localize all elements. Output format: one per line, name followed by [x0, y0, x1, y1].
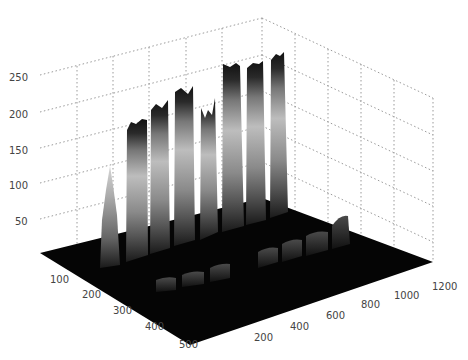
x-tick-600: 600: [326, 310, 345, 321]
z-tick-250: 250: [9, 72, 28, 83]
z-axis: 250 200 150 100 50: [9, 72, 28, 227]
z-tick-200: 200: [9, 109, 28, 120]
y-tick-300: 300: [113, 305, 132, 316]
x-tick-800: 800: [361, 299, 380, 310]
z-tick-100: 100: [9, 180, 28, 191]
x-tick-400: 400: [290, 321, 309, 332]
y-tick-200: 200: [82, 289, 101, 300]
y-tick-400: 400: [145, 321, 164, 332]
y-tick-500: 500: [179, 339, 198, 350]
z-tick-50: 50: [15, 216, 28, 227]
z-tick-150: 150: [9, 145, 28, 156]
y-tick-100: 100: [50, 274, 69, 285]
x-tick-1000: 1000: [394, 290, 419, 301]
x-tick-200: 200: [254, 332, 273, 343]
x-tick-1200: 1200: [432, 281, 457, 292]
surface-plot: 250 200 150 100 50 100 200 300 400 500 2…: [0, 0, 468, 360]
